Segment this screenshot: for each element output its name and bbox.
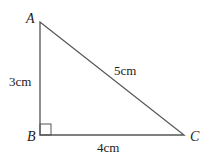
triangle-diagram: A B C 3cm 5cm 4cm <box>0 0 215 165</box>
triangle-abc <box>40 22 184 135</box>
side-bc-length: 4cm <box>97 140 119 155</box>
side-ab-length: 3cm <box>9 74 31 89</box>
vertex-b-label: B <box>27 129 36 144</box>
side-ac-length: 5cm <box>114 63 136 78</box>
vertex-c-label: C <box>190 129 200 144</box>
right-angle-marker <box>40 124 51 135</box>
vertex-a-label: A <box>25 11 35 26</box>
